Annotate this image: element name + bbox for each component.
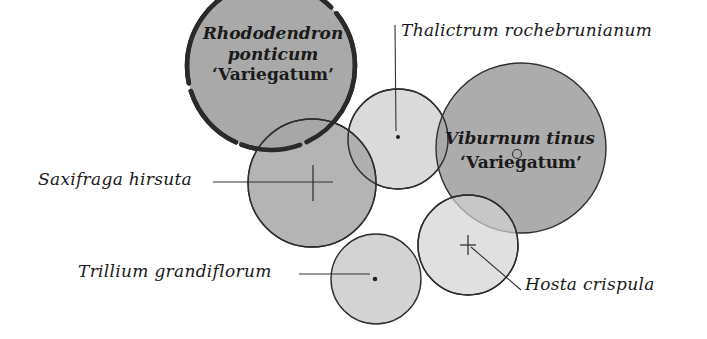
rhododendron-name-line1: Rhododendron [203, 24, 344, 43]
trillium-label: Trillium grandiflorum [78, 262, 272, 281]
rhododendron-name-line2: ponticum [228, 45, 319, 64]
viburnum-name: Viburnum tinus [445, 129, 595, 148]
viburnum-cultivar: ‘Variegatum’ [460, 153, 582, 172]
planting-plan-diagram: Rhododendron ponticum ‘Variegatum’ Thali… [0, 0, 707, 339]
saxifraga-label: Saxifraga hirsuta [38, 170, 192, 189]
dot-marker-icon [396, 135, 400, 139]
trillium-plant [299, 234, 421, 324]
rhododendron-cultivar: ‘Variegatum’ [212, 65, 334, 84]
thalictrum-label: Thalictrum rochebrunianum [401, 21, 652, 40]
dot-marker-icon [373, 277, 378, 282]
hosta-label: Hosta crispula [525, 275, 655, 294]
